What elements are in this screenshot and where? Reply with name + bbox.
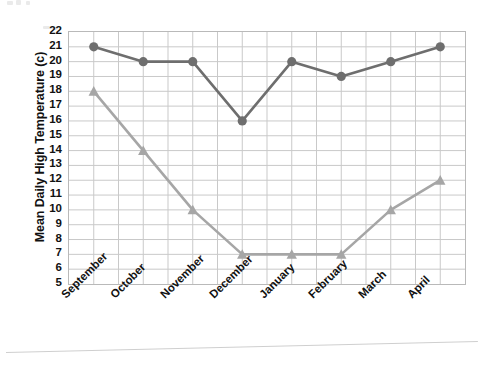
x-axis-tick-february: February: [306, 257, 349, 300]
x-axis-tick-labels: SeptemberOctoberNovemberDecemberJanuaryF…: [0, 0, 485, 367]
x-axis-tick-january: January: [257, 261, 297, 301]
temperature-line-chart: Mean Daily High Temperature (c) 22212019…: [0, 0, 485, 367]
x-axis-tick-april: April: [405, 273, 432, 300]
x-axis-tick-september: September: [59, 250, 110, 301]
x-axis-tick-december: December: [207, 253, 255, 301]
x-axis-tick-october: October: [108, 261, 148, 301]
x-axis-tick-march: March: [356, 268, 388, 300]
x-axis-tick-november: November: [158, 252, 206, 300]
